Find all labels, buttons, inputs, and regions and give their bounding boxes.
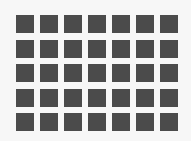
grid-square — [88, 113, 106, 131]
grid-square — [160, 15, 178, 33]
grid-square — [136, 64, 154, 82]
square-grid — [16, 15, 178, 131]
grid-square — [160, 64, 178, 82]
grid-square — [40, 113, 58, 131]
grid-square — [64, 15, 82, 33]
grid-square — [64, 64, 82, 82]
grid-square — [112, 113, 130, 131]
grid-square — [88, 40, 106, 58]
grid-square — [88, 15, 106, 33]
grid-square — [64, 89, 82, 107]
grid-square — [16, 113, 34, 131]
grid-square — [136, 40, 154, 58]
grid-square — [88, 64, 106, 82]
grid-square — [40, 40, 58, 58]
grid-square — [40, 89, 58, 107]
grid-square — [160, 89, 178, 107]
grid-square — [112, 64, 130, 82]
grid-square — [136, 15, 154, 33]
grid-square — [16, 40, 34, 58]
grid-square — [64, 40, 82, 58]
grid-square — [136, 89, 154, 107]
grid-square — [16, 15, 34, 33]
grid-square — [16, 89, 34, 107]
grid-square — [88, 89, 106, 107]
grid-square — [64, 113, 82, 131]
grid-square — [40, 15, 58, 33]
grid-square — [160, 113, 178, 131]
grid-square — [112, 89, 130, 107]
grid-square — [160, 40, 178, 58]
grid-square — [112, 15, 130, 33]
grid-square — [40, 64, 58, 82]
grid-square — [112, 40, 130, 58]
grid-square — [136, 113, 154, 131]
grid-square — [16, 64, 34, 82]
